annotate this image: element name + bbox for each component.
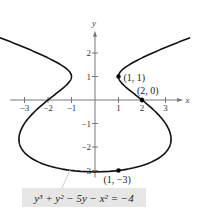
x-tick-label: −3 — [20, 103, 30, 113]
point-label: (1, −3) — [104, 174, 131, 186]
y-tick-label: 2 — [87, 48, 92, 58]
equation-label: y³ + y² − 5y − x² = −4 — [22, 188, 146, 207]
x-tick-label: 3 — [163, 103, 168, 113]
chart-plot: xy−3−2−1123−3−2−112 (1, 1)(2, 0)(1, −3) — [0, 0, 207, 211]
point-marker — [116, 168, 120, 172]
y-tick-label: −1 — [81, 119, 91, 129]
point-label: (1, 1) — [124, 72, 146, 84]
x-axis-arrow-icon — [177, 98, 183, 102]
x-tick-label: −1 — [67, 103, 77, 113]
point-marker — [116, 74, 120, 78]
label-leader-line — [62, 170, 70, 188]
x-tick-label: −2 — [43, 103, 53, 113]
point-marker — [140, 98, 144, 102]
y-axis-arrow-icon — [93, 31, 97, 37]
y-tick-label: 1 — [87, 72, 92, 82]
y-axis-label: y — [91, 18, 96, 28]
y-tick-label: −2 — [81, 142, 91, 152]
axes: xy−3−2−1123−3−2−112 — [10, 18, 189, 178]
x-axis-label: x — [184, 95, 189, 105]
point-label: (2, 0) — [137, 85, 159, 97]
x-tick-label: 2 — [140, 103, 145, 113]
x-tick-label: 1 — [116, 103, 121, 113]
y-tick-label: −3 — [81, 166, 91, 176]
